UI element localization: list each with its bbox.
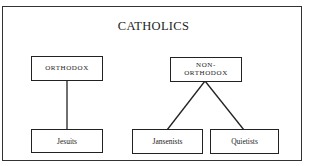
node-jansenists-label: Jansenists [153,137,183,146]
node-jesuits: Jesuits [31,129,103,153]
node-orthodox-label: ORTHODOX [45,65,89,73]
node-non-orthodox-label-line2: ORTHODOX [184,70,228,78]
node-orthodox: ORTHODOX [31,56,103,81]
node-quietists-label: Quietists [231,137,258,146]
node-non-orthodox: NON- ORTHODOX [170,57,242,82]
edge-nonorthodox-quietists [205,81,244,130]
edge-nonorthodox-jansenists [167,81,205,130]
node-jansenists: Jansenists [132,129,203,154]
node-jesuits-label: Jesuits [57,137,77,146]
node-quietists: Quietists [210,129,279,154]
